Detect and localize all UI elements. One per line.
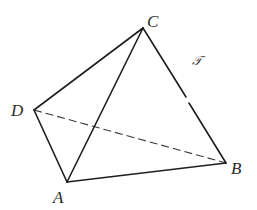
vertex-label-d: D (11, 102, 23, 119)
edge-ca (67, 28, 143, 182)
edge-ab (67, 163, 226, 182)
tetrahedron-diagram (0, 0, 257, 210)
surface-label-script-t: 𝒯 (192, 54, 202, 67)
vertex-label-a: A (53, 189, 63, 206)
vertex-label-c: C (147, 13, 158, 30)
edge-da (34, 110, 67, 182)
vertex-label-b: B (231, 160, 241, 177)
edge-cb-upper (143, 28, 186, 97)
edge-dc (34, 28, 143, 110)
edge-db-hidden (34, 110, 226, 163)
edge-cb-lower (189, 103, 226, 163)
